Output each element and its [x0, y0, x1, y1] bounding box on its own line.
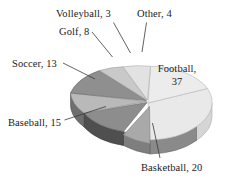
leader-line-other — [142, 23, 147, 53]
pie-chart-canvas — [0, 0, 230, 182]
slice-label-baseball: Baseball, 15 — [8, 117, 61, 129]
slice-label-volleyball: Volleyball, 3 — [56, 8, 111, 20]
leader-line-volleyball — [114, 23, 131, 54]
slice-label-basketball: Basketball, 20 — [141, 162, 202, 174]
slice-label-football-line1: Football, — [149, 63, 205, 76]
slice-label-other: Other, 4 — [137, 8, 172, 20]
leader-line-golf — [92, 32, 113, 57]
slice-label-soccer: Soccer, 13 — [12, 58, 57, 70]
slice-label-golf: Golf, 8 — [59, 26, 89, 38]
slice-label-football: Football, 37 — [149, 63, 205, 88]
pie-chart-figure: Volleyball, 3 Other, 4 Golf, 8 Soccer, 1… — [0, 0, 230, 182]
leader-line-soccer — [63, 63, 95, 79]
slice-label-football-line2: 37 — [149, 76, 205, 89]
